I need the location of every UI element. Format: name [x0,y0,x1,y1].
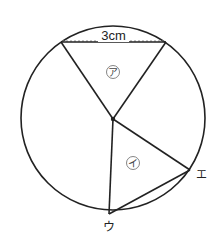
geometry-figure: 3cm ア イ ウ エ [0,0,220,234]
label-i-circled: イ [127,157,140,170]
chord-u-e [109,170,190,214]
radius-to-e [113,119,190,170]
radius-right [113,42,166,119]
vertex-label-e: エ [196,168,207,181]
label-a-text: ア [108,67,118,78]
radius-left [61,42,113,119]
vertex-label-u: ウ [103,220,115,234]
label-a-circled: ア [107,66,120,79]
label-i-text: イ [128,158,138,169]
radius-to-u [109,119,113,214]
dimension-label: 3cm [101,28,126,43]
center-point [111,117,115,121]
